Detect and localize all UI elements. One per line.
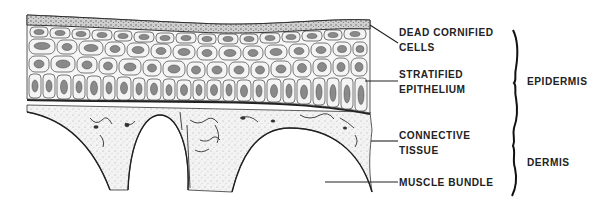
group-label-epidermis: EPIDERMIS bbox=[527, 74, 587, 89]
label-line: EPITHELIUM bbox=[399, 82, 466, 97]
label-line: CONNECTIVE bbox=[399, 128, 471, 143]
label-line: DERMIS bbox=[527, 155, 570, 170]
label-muscle-bundle: MUSCLE BUNDLE bbox=[399, 175, 494, 190]
leader-dead-cornified-cells bbox=[370, 25, 398, 43]
label-line: DEAD CORNIFIED bbox=[399, 25, 494, 40]
label-line: EPIDERMIS bbox=[527, 74, 587, 89]
group-label-dermis: DERMIS bbox=[527, 155, 570, 170]
label-line: TISSUE bbox=[399, 143, 471, 158]
label-dead-cornified-cells: DEAD CORNIFIED CELLS bbox=[399, 25, 494, 55]
label-stratified-epithelium: STRATIFIED EPITHELIUM bbox=[399, 67, 466, 97]
skin-cross-section-illustration bbox=[0, 0, 612, 208]
brace-epidermis-dermis bbox=[512, 30, 517, 196]
label-line: MUSCLE BUNDLE bbox=[399, 175, 494, 190]
label-line: STRATIFIED bbox=[399, 67, 466, 82]
label-connective-tissue: CONNECTIVE TISSUE bbox=[399, 128, 471, 158]
label-line: CELLS bbox=[399, 40, 494, 55]
dermis-layer bbox=[27, 105, 372, 192]
